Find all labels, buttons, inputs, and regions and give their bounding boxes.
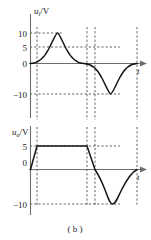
- bottom-y-axis-label: uo/V: [12, 127, 29, 138]
- bottom-ytick-minus10: −10: [13, 200, 28, 210]
- top-x-axis-label: t: [137, 66, 140, 76]
- top-ytick-0: 0: [23, 59, 28, 69]
- top-x-axis-arrowhead: [140, 61, 147, 67]
- bottom-ytick-0: 0: [23, 158, 28, 168]
- top-y-axis-label: ui/V: [34, 6, 50, 17]
- waveform-figure: 10 5 0 −10 ui/V t: [0, 0, 151, 240]
- top-ytick-10: 10: [18, 29, 28, 39]
- figure-svg: 10 5 0 −10 ui/V t: [0, 0, 151, 240]
- bottom-chart-group: 5 0 −10 uo/V t: [12, 126, 147, 215]
- top-chart-group: 10 5 0 −10 ui/V t: [13, 6, 147, 120]
- bottom-clipped-curve: [31, 146, 138, 204]
- figure-caption: ( b ): [68, 224, 83, 234]
- bottom-x-axis-label: t: [137, 172, 140, 182]
- bottom-ytick-5: 5: [23, 142, 28, 152]
- top-ytick-minus10: −10: [13, 90, 28, 100]
- bottom-x-axis-arrowhead: [140, 167, 147, 173]
- top-ytick-5: 5: [23, 43, 28, 53]
